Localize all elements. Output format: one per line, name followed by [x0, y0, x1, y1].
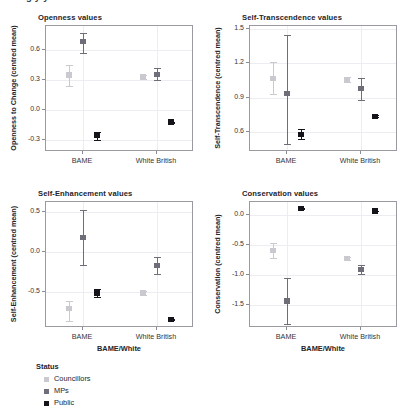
panel-title: Conservation values	[242, 189, 318, 198]
error-bar-cap-lower	[344, 82, 351, 83]
data-point-marker	[140, 74, 145, 79]
panel-self-transcendence: Self-Transcendence values Self-Transcend…	[204, 9, 407, 184]
legend-label: Councillors	[54, 374, 91, 383]
panel-grid: Openness values Openness to Change (cent…	[0, 9, 407, 359]
error-bar-cap-upper	[66, 65, 73, 66]
error-bar-cap-upper	[358, 265, 365, 266]
y-axis-label: Conservation (centred mean)	[213, 201, 222, 327]
plot-area	[45, 25, 193, 151]
gridline-horizontal	[250, 215, 396, 216]
x-axis-label: BAME/White	[249, 344, 397, 353]
legend-label: Public	[54, 398, 74, 407]
gridline-horizontal	[250, 132, 396, 133]
error-bar-line	[287, 35, 288, 144]
error-bar-cap-lower	[270, 94, 277, 95]
y-tick-mark	[246, 214, 249, 215]
gridline-horizontal	[46, 292, 192, 293]
error-bar-cap-lower	[270, 258, 277, 259]
x-tick-mark	[360, 327, 361, 330]
error-bar-cap-upper	[270, 62, 277, 63]
y-tick-mark	[42, 251, 45, 252]
data-point-marker	[298, 206, 303, 211]
gridline-horizontal	[46, 50, 192, 51]
y-tick-label: 0.0	[14, 105, 40, 112]
y-tick-label: 0.3	[14, 75, 40, 82]
gridline-vertical	[361, 202, 362, 326]
plot-area	[249, 201, 397, 327]
data-point-marker	[154, 263, 159, 268]
y-tick-label: 0.0	[218, 210, 244, 217]
y-tick-label: -1.0	[218, 270, 244, 277]
x-tick-mark	[360, 151, 361, 154]
error-bar-cap-lower	[80, 53, 87, 54]
error-bar-cap-lower	[94, 140, 101, 141]
x-tick-label: BAME	[251, 332, 321, 341]
data-point-marker	[372, 114, 377, 119]
gridline-horizontal	[46, 212, 192, 213]
gridline-horizontal	[46, 110, 192, 111]
y-tick-mark	[42, 139, 45, 140]
gridline-horizontal	[250, 98, 396, 99]
data-point-marker	[66, 72, 71, 77]
x-tick-label: White British	[121, 332, 191, 341]
plot-area	[45, 201, 193, 327]
data-point-marker	[94, 133, 99, 138]
data-point-marker	[270, 248, 275, 253]
error-bar-cap-lower	[358, 100, 365, 101]
error-bar-cap-lower	[80, 265, 87, 266]
x-tick-label: White British	[325, 156, 395, 165]
x-tick-mark	[82, 151, 83, 154]
error-bar-cap-lower	[284, 144, 291, 145]
x-tick-label: BAME	[47, 156, 117, 165]
error-bar-cap-lower	[66, 321, 73, 322]
x-axis-label: BAME/White	[45, 344, 193, 353]
data-point-marker	[270, 76, 275, 81]
gridline-horizontal	[250, 275, 396, 276]
error-bar-cap-upper	[358, 78, 365, 79]
error-bar-cap-upper	[284, 35, 291, 36]
data-point-marker	[66, 306, 71, 311]
gridline-horizontal	[250, 29, 396, 30]
error-bar-cap-upper	[154, 68, 161, 69]
gridline-horizontal	[46, 80, 192, 81]
y-tick-mark	[42, 291, 45, 292]
legend-title: Status	[36, 362, 59, 371]
legend: Status CouncillorsMPsPublic	[0, 362, 407, 419]
data-point-marker	[94, 290, 99, 295]
y-tick-mark	[246, 28, 249, 29]
error-bar-cap-lower	[94, 297, 101, 298]
x-tick-label: BAME	[251, 156, 321, 165]
y-tick-label: -1.5	[218, 300, 244, 307]
y-tick-label: 0.5	[14, 207, 40, 214]
error-bar-cap-lower	[154, 80, 161, 81]
y-tick-label: -0.3	[14, 135, 40, 142]
x-tick-label: White British	[325, 332, 395, 341]
error-bar-cap-upper	[154, 257, 161, 258]
panel-self-enhancement: Self-Enhancement values Self-Enhancement…	[0, 185, 203, 360]
cut-off-header-label: g y y	[26, 0, 49, 2]
data-point-marker	[344, 256, 349, 261]
error-bar-cap-lower	[358, 274, 365, 275]
y-tick-mark	[42, 211, 45, 212]
panel-title: Openness values	[38, 13, 102, 22]
y-axis-label: Self-Enhancement (centred mean)	[9, 201, 18, 327]
plot-area	[249, 25, 397, 151]
data-point-marker	[168, 119, 173, 124]
error-bar-cap-upper	[80, 210, 87, 211]
x-tick-mark	[82, 327, 83, 330]
y-axis-label: Openness to Change (centred mean)	[9, 25, 18, 151]
panel-conservation: Conservation values Conservation (centre…	[204, 185, 407, 360]
y-tick-label: 0.6	[14, 45, 40, 52]
gridline-horizontal	[46, 140, 192, 141]
data-point-marker	[154, 72, 159, 77]
data-point-marker	[344, 77, 349, 82]
legend-marker	[44, 389, 49, 394]
data-point-marker	[168, 317, 173, 322]
data-point-marker	[284, 298, 289, 303]
x-tick-mark	[286, 151, 287, 154]
data-point-marker	[298, 132, 303, 137]
data-point-marker	[284, 91, 289, 96]
error-bar-cap-lower	[66, 86, 73, 87]
gridline-vertical	[157, 26, 158, 150]
y-tick-label: -0.5	[218, 240, 244, 247]
